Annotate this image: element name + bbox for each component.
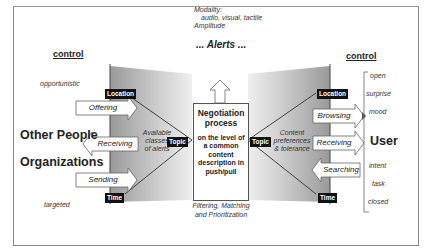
band-text-line: Available	[137, 129, 177, 137]
right-tag-location: Location	[317, 89, 348, 99]
action-receiving-right: Receiving	[313, 138, 355, 147]
right-control-task: task	[372, 180, 385, 187]
band-text-line: & tolerance	[268, 145, 316, 153]
right-control-surprise: surprise	[366, 90, 391, 97]
action-browsing: Browsing	[313, 111, 355, 120]
negotiation-desc-line: description in	[194, 159, 248, 167]
actor-user: User	[370, 134, 398, 148]
right-band-text: Content preferences & tolerance	[268, 129, 316, 153]
alerts-title: ... Alerts ...	[196, 39, 246, 50]
left-control-bottom: targeted	[44, 201, 70, 208]
modality-label: Modality:	[194, 6, 262, 14]
left-control-heading: control	[53, 49, 84, 59]
negotiation-desc-line: push/pull	[194, 168, 248, 176]
center-caption: Filtering, Matching and Prioritization	[188, 202, 254, 219]
negotiation-process-box: Negotiation process on the level of a co…	[193, 103, 249, 201]
negotiation-title-2: process	[194, 118, 248, 128]
negotiation-desc-line: a common	[194, 142, 248, 150]
negotiation-title-1: Negotiation	[194, 108, 248, 118]
right-control-mood: mood	[369, 108, 387, 115]
action-receiving-left: Receiving	[92, 139, 138, 148]
right-tag-time: Time	[318, 193, 337, 203]
left-tag-topic: Topic	[167, 137, 188, 147]
left-tag-time: Time	[105, 193, 124, 203]
negotiation-desc-line: content	[194, 151, 248, 159]
actor-other-people: Other People	[20, 128, 98, 142]
caption-line-1: Filtering, Matching	[188, 202, 254, 211]
band-text-line: preferences	[268, 137, 316, 145]
action-sending: Sending	[78, 175, 128, 184]
right-control-heading: control	[346, 51, 377, 61]
actor-organizations: Organizations	[20, 155, 103, 169]
caption-line-2: and Prioritization	[188, 211, 254, 220]
right-control-closed: closed	[368, 198, 388, 205]
action-searching: Searching	[321, 165, 361, 174]
negotiation-desc-line: on the level of	[194, 134, 248, 142]
left-tag-location: Location	[105, 89, 136, 99]
band-text-line: Content	[268, 129, 316, 137]
modality-block: Modality: audio, visual, tactile Amplitu…	[194, 6, 262, 30]
right-control-open: open	[370, 72, 386, 79]
right-control-intent: intent	[369, 162, 386, 169]
modality-values: audio, visual, tactile	[194, 14, 262, 22]
action-offering: Offering	[78, 103, 128, 112]
amplitude-label: Amplitude	[194, 22, 262, 30]
left-control-top: opportunistic	[40, 80, 80, 87]
